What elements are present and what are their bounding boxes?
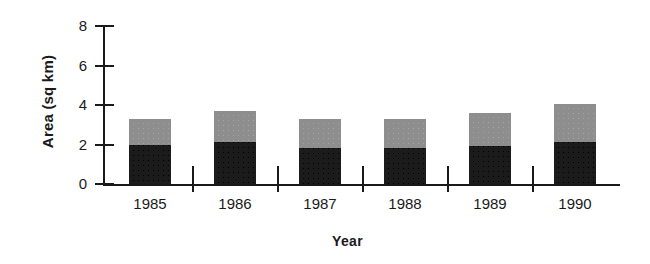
x-axis-tick-label: 1990 [540,196,610,212]
x-axis-tick-label: 1987 [285,196,355,212]
bar-segment-upper [469,113,511,146]
y-axis-tick-label: 8 [57,18,87,33]
bar-segment-lower [129,145,171,184]
bar-chart: Area (sq km) 02468 198519861987198819891… [0,0,650,264]
bar-segment-lower [469,146,511,184]
bar-segment-upper [129,119,171,145]
y-axis-tick [95,144,114,146]
x-axis-title-text: Year [332,233,363,249]
y-axis-tick-label: 0 [57,176,87,191]
x-axis-tick [532,166,534,192]
x-axis-title: Year [0,233,650,249]
x-axis-tick [192,166,194,192]
bar-1988 [384,119,426,184]
bar-segment-lower [384,148,426,184]
x-axis-tick [447,166,449,192]
y-axis-title: Area (sq km) [39,12,56,192]
y-axis-tick-label: 4 [57,97,87,112]
y-axis-tick [95,25,114,27]
bar-1986 [214,111,256,184]
bar-segment-upper [214,111,256,142]
y-axis-tick [95,65,114,67]
bar-segment-upper [554,104,596,141]
bar-segment-upper [384,119,426,148]
bar-segment-lower [299,148,341,184]
y-axis-tick [95,183,114,185]
bar-1985 [129,119,171,184]
x-axis-tick [362,166,364,192]
x-axis-tick-label: 1985 [115,196,185,212]
y-axis-tick [95,104,114,106]
x-axis-tick-label: 1989 [455,196,525,212]
bar-segment-lower [214,142,256,184]
bar-segment-upper [299,119,341,148]
y-axis-tick-label: 2 [57,137,87,152]
bar-1990 [554,104,596,184]
x-axis-tick-label: 1986 [200,196,270,212]
bar-segment-lower [554,142,596,184]
x-axis-tick-label: 1988 [370,196,440,212]
x-axis-tick [277,166,279,192]
y-axis-tick-label: 6 [57,58,87,73]
bar-1987 [299,119,341,184]
bar-1989 [469,113,511,184]
